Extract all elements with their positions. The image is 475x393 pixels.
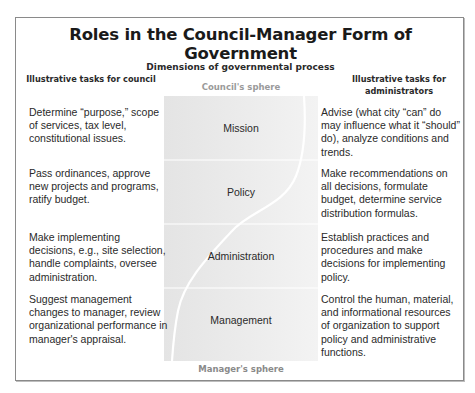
stage-management: Management	[164, 314, 318, 326]
admin-task-policy: Make recommendations on all decisions, f…	[321, 167, 461, 220]
council-sphere-label: Council's sphere	[164, 82, 318, 92]
stage-mission: Mission	[164, 122, 318, 134]
admin-task-administration: Establish practices and procedures and m…	[321, 231, 461, 284]
admin-task-management: Control the human, material, and informa…	[321, 293, 461, 359]
diagram-title: Roles in the Council-Manager Form of Gov…	[16, 25, 465, 63]
council-column-header: Illustrative tasks for council	[26, 73, 156, 85]
process-dimensions-panel: Mission Policy Administration Management	[164, 96, 318, 361]
admin-task-mission: Advise (what city “can” do may influence…	[321, 106, 461, 159]
council-task-administration: Make implementing decisions, e.g., site …	[29, 231, 169, 284]
stage-administration: Administration	[164, 250, 318, 262]
council-task-management: Suggest management changes to manager, r…	[29, 293, 169, 346]
council-task-mission: Determine “purpose,” scope of services, …	[29, 106, 169, 146]
diagram-subtitle: Dimensions of governmental process	[16, 62, 465, 72]
council-task-policy: Pass ordinances, approve new projects an…	[29, 167, 169, 207]
diagram-frame: Roles in the Council-Manager Form of Gov…	[15, 17, 464, 381]
stage-policy: Policy	[164, 186, 318, 198]
manager-sphere-label: Manager's sphere	[164, 364, 318, 374]
administrators-column-header: Illustrative tasks for administrators	[334, 73, 464, 97]
